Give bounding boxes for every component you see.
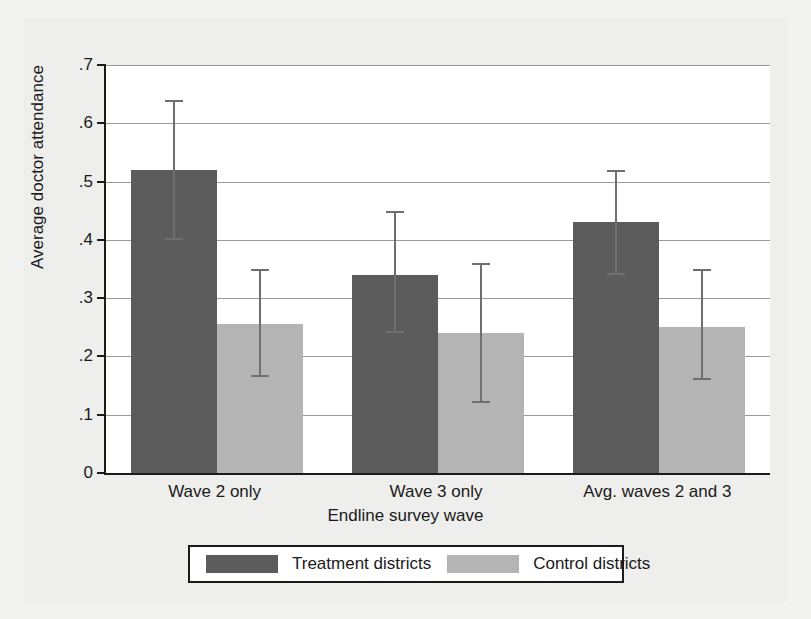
legend-label-treatment: Treatment districts bbox=[292, 554, 431, 574]
y-axis-tick bbox=[97, 355, 106, 357]
x-axis-title: Endline survey wave bbox=[0, 506, 811, 526]
error-bar-line bbox=[173, 100, 175, 240]
figure-canvas: Average doctor attendance 0.1.2.3.4.5.6.… bbox=[0, 0, 811, 619]
legend-swatch-control-icon bbox=[447, 555, 519, 573]
plot-area: 0.1.2.3.4.5.6.7 bbox=[104, 65, 770, 475]
y-tick-label: 0 bbox=[84, 463, 93, 483]
y-axis-tick bbox=[97, 239, 106, 241]
y-axis-tick bbox=[97, 297, 106, 299]
error-bar-line bbox=[259, 269, 261, 377]
error-bar-cap-upper bbox=[251, 269, 269, 271]
y-axis-title: Average doctor attendance bbox=[28, 65, 48, 269]
y-tick-label: .3 bbox=[79, 288, 93, 308]
y-tick-label: .7 bbox=[79, 55, 93, 75]
y-axis-tick bbox=[97, 414, 106, 416]
y-tick-label: .6 bbox=[79, 113, 93, 133]
error-bar-cap-lower bbox=[165, 238, 183, 240]
error-bar-cap-upper bbox=[386, 211, 404, 213]
error-bar-cap-upper bbox=[693, 269, 711, 271]
error-bar-cap-upper bbox=[165, 100, 183, 102]
error-bar-line bbox=[615, 170, 617, 275]
error-bar-line bbox=[394, 211, 396, 333]
legend-label-control: Control districts bbox=[533, 554, 650, 574]
legend-entry-control: Control districts bbox=[431, 547, 650, 581]
y-axis-tick bbox=[97, 64, 106, 66]
gridline bbox=[106, 65, 770, 66]
y-axis-tick bbox=[97, 122, 106, 124]
y-tick-label: .4 bbox=[79, 230, 93, 250]
error-bar-cap-upper bbox=[607, 170, 625, 172]
y-axis-tick bbox=[97, 472, 106, 474]
chart-legend: Treatment districts Control districts bbox=[188, 545, 624, 583]
x-tick-label: Avg. waves 2 and 3 bbox=[507, 482, 807, 502]
gridline bbox=[106, 123, 770, 124]
y-axis-tick bbox=[97, 181, 106, 183]
error-bar-cap-lower bbox=[472, 401, 490, 403]
y-tick-label: .5 bbox=[79, 172, 93, 192]
error-bar-cap-lower bbox=[693, 378, 711, 380]
error-bar-cap-upper bbox=[472, 263, 490, 265]
error-bar-cap-lower bbox=[607, 273, 625, 275]
error-bar-line bbox=[701, 269, 703, 380]
legend-swatch-treatment-icon bbox=[206, 555, 278, 573]
y-tick-label: .2 bbox=[79, 346, 93, 366]
error-bar-cap-lower bbox=[251, 375, 269, 377]
error-bar-line bbox=[480, 263, 482, 403]
legend-entry-treatment: Treatment districts bbox=[190, 547, 431, 581]
y-tick-label: .1 bbox=[79, 405, 93, 425]
error-bar-cap-lower bbox=[386, 331, 404, 333]
